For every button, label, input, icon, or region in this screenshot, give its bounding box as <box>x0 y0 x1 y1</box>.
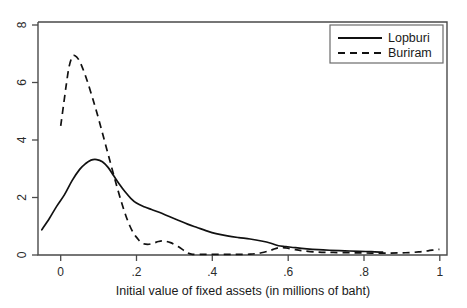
x-tick-label-0.4: .4 <box>207 265 217 279</box>
x-tick-label-1: 1 <box>436 265 443 279</box>
legend: Lopburi Buriram <box>330 25 443 63</box>
x-axis-ticks <box>61 255 440 261</box>
y-tick-label-0: 0 <box>15 251 29 258</box>
x-axis-tick-labels: 0 .2 .4 .6 .8 1 <box>57 265 443 279</box>
legend-label-buriram: Buriram <box>388 46 432 60</box>
y-tick-label-8: 8 <box>15 21 29 28</box>
x-tick-label-0: 0 <box>57 265 64 279</box>
y-tick-label-2: 2 <box>15 194 29 201</box>
y-tick-label-6: 6 <box>15 79 29 86</box>
series-line-lopburi <box>42 159 383 252</box>
x-tick-label-0.6: .6 <box>283 265 293 279</box>
x-tick-label-0.2: .2 <box>131 265 141 279</box>
x-axis-title: Initial value of fixed assets (in millio… <box>116 284 370 298</box>
series-line-buriram <box>61 55 440 254</box>
kernel-density-figure: 0 2 4 6 8 0 .2 .4 .6 .8 1 Initial value … <box>0 0 467 308</box>
x-tick-label-0.8: .8 <box>359 265 369 279</box>
y-axis-ticks <box>32 25 38 255</box>
y-tick-label-4: 4 <box>15 136 29 143</box>
y-axis-tick-labels: 0 2 4 6 8 <box>15 21 29 258</box>
legend-label-lopburi: Lopburi <box>388 31 430 45</box>
plot-canvas: 0 2 4 6 8 0 .2 .4 .6 .8 1 Initial value … <box>0 0 467 308</box>
